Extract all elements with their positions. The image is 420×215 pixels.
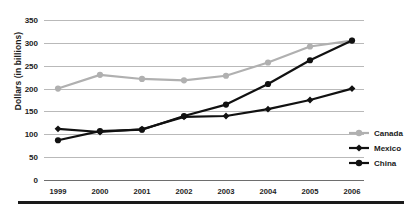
y-tick-label: 250: [25, 61, 38, 70]
x-tick-label: 1999: [50, 187, 67, 196]
data-point: [97, 72, 103, 78]
plot-area: 050100150200250300350 199920002001200220…: [44, 20, 364, 180]
data-point: [265, 106, 272, 113]
legend-item-china[interactable]: China: [348, 158, 403, 168]
y-tick-label: 100: [25, 130, 38, 139]
data-point: [223, 101, 229, 107]
x-tick-label: 2004: [260, 187, 277, 196]
diamond-marker-icon: [348, 143, 370, 153]
circle-marker-icon: [348, 128, 370, 138]
legend-label: Mexico: [374, 144, 401, 153]
legend-label: China: [374, 159, 396, 168]
series-china: [55, 37, 355, 143]
data-point: [181, 113, 187, 119]
x-tick-label: 2005: [302, 187, 319, 196]
x-tick-label: 2002: [176, 187, 193, 196]
y-tick-label: 50: [29, 153, 38, 162]
x-tick-label: 2003: [218, 187, 235, 196]
data-point: [307, 97, 314, 104]
data-point: [223, 73, 229, 79]
data-point: [349, 37, 355, 43]
x-tick-label: 2006: [344, 187, 361, 196]
data-point: [55, 85, 61, 91]
data-point: [55, 137, 61, 143]
data-point: [139, 127, 145, 133]
data-point: [265, 59, 271, 65]
bottom-divider: [18, 201, 404, 204]
series-lines: [44, 20, 364, 180]
legend: CanadaMexicoChina: [348, 128, 403, 168]
y-tick-label: 150: [25, 107, 38, 116]
circle-marker-icon: [348, 158, 370, 168]
data-point: [307, 43, 313, 49]
y-tick-label: 200: [25, 84, 38, 93]
legend-label: Canada: [374, 129, 403, 138]
data-point: [181, 77, 187, 83]
data-point: [55, 125, 62, 132]
legend-item-mexico[interactable]: Mexico: [348, 143, 403, 153]
data-point: [223, 113, 230, 120]
data-point: [97, 128, 103, 134]
y-tick-label: 0: [34, 176, 38, 185]
gridline: [44, 180, 364, 181]
data-point: [349, 85, 356, 92]
x-tick-label: 2001: [134, 187, 151, 196]
data-point: [265, 81, 271, 87]
y-tick-label: 300: [25, 38, 38, 47]
data-point: [139, 76, 145, 82]
line-chart: Dollars (in billions) 050100150200250300…: [0, 0, 420, 215]
series-canada: [55, 37, 355, 91]
y-axis-title: Dollars (in billions): [13, 1, 23, 141]
legend-item-canada[interactable]: Canada: [348, 128, 403, 138]
y-tick-label: 350: [25, 16, 38, 25]
data-point: [307, 57, 313, 63]
x-tick-label: 2000: [92, 187, 109, 196]
